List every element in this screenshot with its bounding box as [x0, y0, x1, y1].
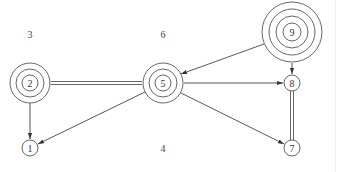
edge-9-5: [181, 44, 264, 74]
node-9-label: 9: [290, 27, 295, 38]
node-1[interactable]: 1: [22, 140, 38, 156]
node-8-label: 8: [290, 78, 295, 89]
node-2[interactable]: 2: [10, 63, 50, 103]
node-7[interactable]: 7: [284, 140, 300, 156]
node-2-label: 2: [28, 78, 33, 89]
node-7-label: 7: [290, 143, 295, 154]
right-edge-divider: [335, 0, 336, 172]
edge-5-7: [181, 93, 284, 144]
edge-8-7: [291, 91, 294, 140]
edge-5-1: [38, 92, 145, 144]
free-label-4: 4: [161, 143, 166, 154]
node-9[interactable]: 9: [262, 2, 322, 62]
free-label-6: 6: [161, 29, 166, 40]
node-5[interactable]: 5: [143, 63, 183, 103]
node-1-label: 1: [28, 143, 33, 154]
free-label-3: 3: [28, 29, 33, 40]
node-8[interactable]: 8: [284, 75, 300, 91]
edge-2-5: [51, 82, 142, 85]
graph-diagram: 2 5 9 8 7 1 3 6 4: [0, 0, 338, 172]
node-5-label: 5: [161, 78, 166, 89]
